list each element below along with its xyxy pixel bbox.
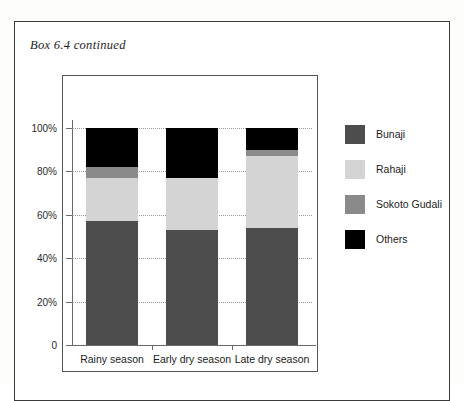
- legend-item[interactable]: Others: [345, 229, 442, 249]
- y-axis-tick-label: 100%: [31, 123, 57, 134]
- x-axis-line: [66, 345, 316, 346]
- bar-segment-sokoto-gudali: [246, 150, 298, 157]
- y-axis-tick: 60%: [66, 215, 72, 216]
- legend-swatch-icon: [345, 195, 365, 214]
- y-axis-tick: 100%: [66, 128, 72, 129]
- legend-swatch-icon: [345, 125, 365, 144]
- bar-stack: [246, 128, 298, 345]
- box-caption: Box 6.4 continued: [30, 38, 126, 53]
- y-axis-tick: 0: [66, 345, 72, 346]
- y-axis-tick: 20%: [66, 302, 72, 303]
- x-axis-label-1: Early dry season: [153, 353, 231, 365]
- y-axis-tick-label: 20%: [37, 296, 57, 307]
- y-axis-tick: 80%: [66, 171, 72, 172]
- legend-label: Bunaji: [376, 128, 405, 140]
- legend-item[interactable]: Rahaji: [345, 159, 442, 179]
- bar-stack: [166, 128, 218, 345]
- legend-item[interactable]: Sokoto Gudali: [345, 194, 442, 214]
- bar-segment-bunaji: [246, 228, 298, 345]
- bar-segment-rahaji: [86, 178, 138, 221]
- legend-label: Sokoto Gudali: [376, 198, 442, 210]
- y-axis-tick-label: 40%: [37, 253, 57, 264]
- bar-segment-bunaji: [166, 230, 218, 345]
- bar-segment-bunaji: [86, 221, 138, 345]
- y-axis-tick-label: 0: [51, 340, 57, 351]
- x-axis-label-2: Late dry season: [235, 353, 310, 365]
- chart-legend: BunajiRahajiSokoto GudaliOthers: [345, 124, 442, 264]
- bar-segment-others: [166, 128, 218, 178]
- bar-segment-others: [246, 128, 298, 150]
- x-axis-label-0: Rainy season: [80, 353, 144, 365]
- bar-segment-rahaji: [166, 178, 218, 230]
- y-axis-tick-label: 80%: [37, 166, 57, 177]
- y-axis-tick-label: 60%: [37, 209, 57, 220]
- legend-label: Rahaji: [376, 163, 406, 175]
- bar-segment-sokoto-gudali: [86, 167, 138, 178]
- legend-swatch-icon: [345, 230, 365, 249]
- legend-item[interactable]: Bunaji: [345, 124, 442, 144]
- x-axis-tick: [232, 345, 233, 350]
- x-axis-tick: [152, 345, 153, 350]
- legend-swatch-icon: [345, 160, 365, 179]
- plot-area: 020%40%60%80%100%: [72, 128, 312, 345]
- bar-segment-others: [86, 128, 138, 167]
- y-axis-tick: 40%: [66, 258, 72, 259]
- bar-segment-rahaji: [246, 156, 298, 228]
- legend-label: Others: [376, 233, 408, 245]
- bar-stack: [86, 128, 138, 345]
